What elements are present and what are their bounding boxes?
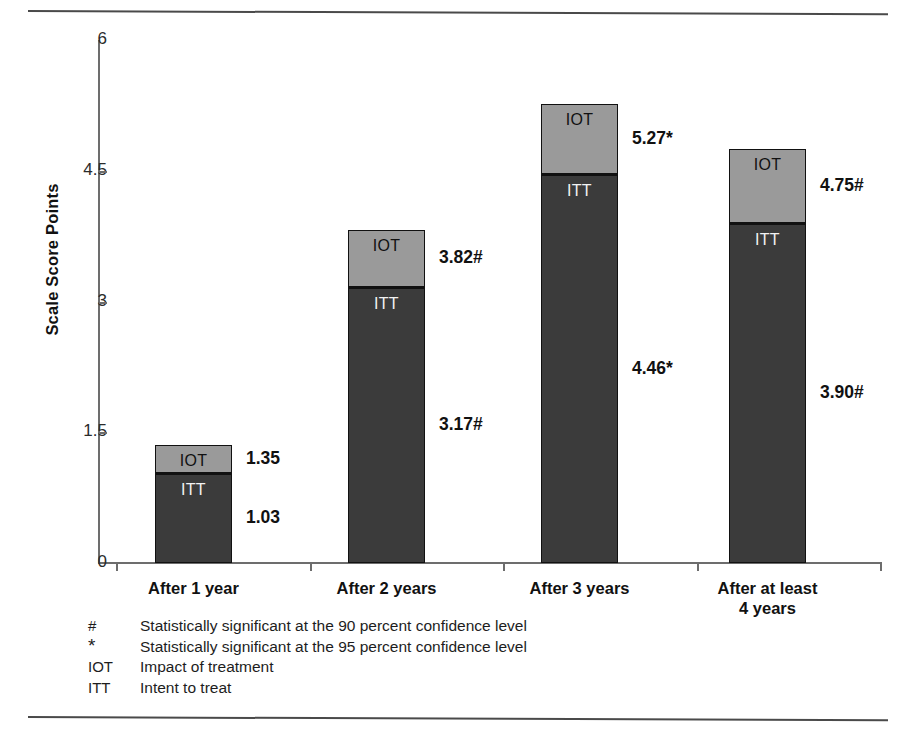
bar-segment-label-itt: ITT — [156, 481, 231, 499]
y-tick-6: 6 — [40, 40, 107, 42]
y-tick-1-5: 1.5 — [40, 432, 107, 434]
value-label-itt-1: 3.17# — [439, 414, 483, 435]
bar-segment-itt-2[interactable]: ITT — [541, 174, 618, 563]
category-label-line: After 2 years — [297, 578, 477, 598]
footnote-row-0: #Statistically significant at the 90 per… — [88, 617, 527, 638]
value-label-itt-3: 3.90# — [820, 382, 864, 403]
bar-segment-label-itt: ITT — [730, 231, 805, 249]
category-label-3: After at least4 years — [678, 578, 858, 618]
bar-segment-iot-1[interactable]: IOT — [348, 230, 425, 287]
category-label-0: After 1 year — [104, 578, 284, 598]
footnote-text: Impact of treatment — [140, 658, 274, 676]
bar-segment-itt-1[interactable]: ITT — [348, 287, 425, 563]
y-tick-label: 0 — [61, 552, 107, 572]
bar-segment-label-iot: IOT — [349, 237, 424, 255]
footnote-symbol: IOT — [88, 658, 140, 675]
y-tick-3: 3 — [40, 302, 107, 304]
bar-group-3[interactable]: IOTITT — [729, 149, 806, 563]
bar-segment-itt-3[interactable]: ITT — [729, 223, 806, 563]
bar-segment-itt-0[interactable]: ITT — [155, 473, 232, 563]
bar-group-0[interactable]: IOTITT — [155, 445, 232, 563]
bar-segment-label-iot: IOT — [730, 156, 805, 174]
y-tick-mark — [99, 432, 107, 434]
x-tick-mark-4 — [880, 563, 882, 571]
value-label-iot-1: 3.82# — [439, 247, 483, 268]
y-tick-mark — [99, 302, 107, 304]
category-label-line: After 3 years — [490, 578, 670, 598]
y-tick-label: 6 — [61, 29, 107, 49]
category-label-2: After 3 years — [490, 578, 670, 598]
footnote-row-1: *Statistically significant at the 95 per… — [88, 638, 527, 659]
y-tick-label: 4.5 — [61, 160, 107, 180]
bar-segment-label-itt: ITT — [349, 295, 424, 313]
y-tick-mark — [99, 171, 107, 173]
x-tick-mark-2 — [503, 563, 505, 571]
y-tick-0: 0 — [40, 563, 107, 565]
footnote-text: Statistically significant at the 90 perc… — [140, 617, 527, 635]
footnote-symbol: ITT — [88, 679, 140, 696]
bar-segment-label-itt: ITT — [542, 182, 617, 200]
footnote-text: Intent to treat — [140, 679, 231, 697]
x-tick-mark-1 — [310, 563, 312, 571]
category-label-line: 4 years — [678, 598, 858, 618]
footnote-symbol: # — [88, 617, 140, 634]
value-label-iot-3: 4.75# — [820, 175, 864, 196]
value-label-itt-2: 4.46* — [632, 358, 673, 379]
bar-segment-iot-0[interactable]: IOT — [155, 445, 232, 473]
footnote-row-2: IOTImpact of treatment — [88, 658, 527, 679]
y-axis-title: Scale Score Points — [43, 165, 62, 355]
bar-segment-label-iot: IOT — [542, 111, 617, 129]
value-label-iot-0: 1.35 — [246, 448, 280, 469]
bar-segment-iot-3[interactable]: IOT — [729, 149, 806, 223]
y-tick-4-5: 4.5 — [40, 171, 107, 173]
category-label-line: After at least — [678, 578, 858, 598]
y-tick-label: 3 — [61, 291, 107, 311]
footnote-symbol: * — [88, 640, 140, 652]
footnote-row-3: ITTIntent to treat — [88, 679, 527, 700]
x-tick-mark-3 — [697, 563, 699, 571]
bar-segment-label-iot: IOT — [156, 452, 231, 470]
bar-group-1[interactable]: IOTITT — [348, 230, 425, 563]
value-label-iot-2: 5.27* — [632, 128, 673, 149]
footnote-text: Statistically significant at the 95 perc… — [140, 638, 527, 656]
category-label-line: After 1 year — [104, 578, 284, 598]
bar-segment-iot-2[interactable]: IOT — [541, 104, 618, 175]
footnote-legend: #Statistically significant at the 90 per… — [88, 617, 527, 699]
x-tick-mark-0 — [116, 563, 118, 571]
bar-group-2[interactable]: IOTITT — [541, 104, 618, 563]
category-label-1: After 2 years — [297, 578, 477, 598]
value-label-itt-0: 1.03 — [246, 507, 280, 528]
y-tick-label: 1.5 — [61, 421, 107, 441]
